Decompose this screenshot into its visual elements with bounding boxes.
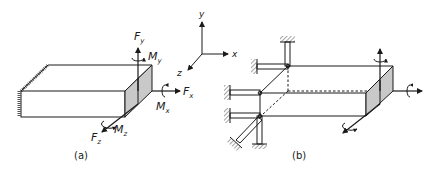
ground-hatch-icon xyxy=(224,108,230,123)
caption-a: (a) xyxy=(74,150,88,161)
label-fx: Fx xyxy=(183,85,194,100)
strut-c-vertical xyxy=(285,42,290,66)
caption-b: (b) xyxy=(292,150,306,161)
axis-label-x: x xyxy=(231,49,238,59)
coordinate-axes-icon xyxy=(188,22,228,70)
axis-label-z: z xyxy=(176,68,182,78)
ground-hatch-icon xyxy=(280,36,295,42)
label-fy: Fy xyxy=(134,30,145,45)
force-fx-arrow xyxy=(152,85,180,97)
strut-c-horizontal xyxy=(257,64,288,69)
beam-front-face-b xyxy=(260,93,366,116)
label-mz: Mz xyxy=(114,123,128,138)
label-fz: Fz xyxy=(91,131,101,146)
axis-label-y: y xyxy=(198,9,205,19)
label-mx: Mx xyxy=(156,100,171,115)
strut-a-horizontal xyxy=(230,90,260,95)
ground-hatch-icon xyxy=(251,59,257,74)
label-my: My xyxy=(148,50,163,65)
panel-b-beam xyxy=(260,66,393,116)
ground-hatch-icon xyxy=(252,144,267,149)
ground-hatch-icon xyxy=(226,137,242,152)
beam-front-face xyxy=(21,91,125,117)
strut-b-diagonal xyxy=(236,117,262,143)
strut-b-horizontal xyxy=(230,113,260,118)
ground-hatch-icon xyxy=(224,85,230,100)
figure-canvas: Fy My Fx Mx Fz Mz (a) y x z xyxy=(0,0,437,172)
